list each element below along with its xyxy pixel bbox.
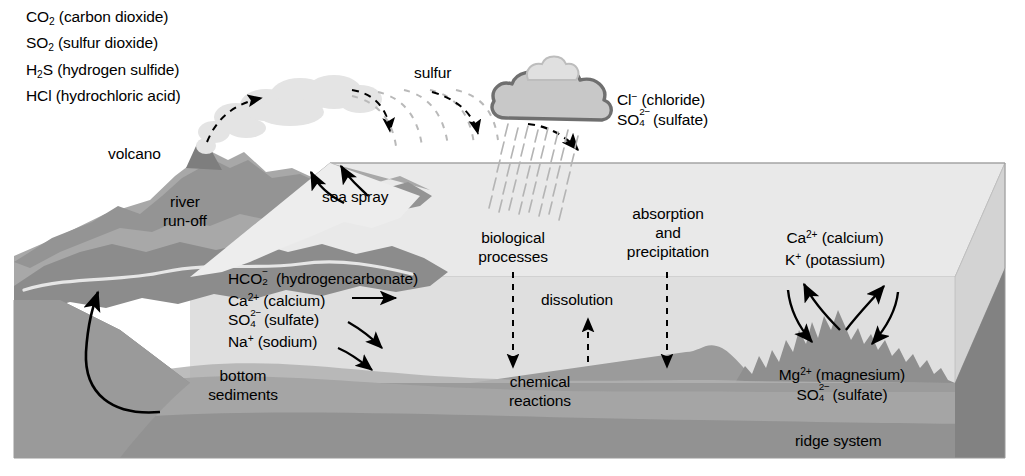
biological-processes-label: biological processes — [467, 228, 559, 266]
sulfur-label: sulfur — [414, 63, 451, 82]
river-ion-hydrogencarbonate: HCO−2 (hydrogencarbonate) — [228, 268, 418, 288]
river-runoff-label: river run-off — [163, 192, 207, 230]
dissolution-label: dissolution — [541, 290, 613, 309]
rain-ion-sulfate: SO2−4 (sulfate) — [617, 109, 708, 129]
volcanic-plume — [196, 75, 382, 154]
biological-processes-line1: biological — [467, 228, 559, 247]
seawater-ion-potassium: K+ (potassium) — [760, 247, 910, 269]
river-input-ions-list: HCO−2 (hydrogencarbonate) Ca2+ (calcium)… — [228, 268, 418, 350]
ridge-system-label: ridge system — [795, 431, 882, 450]
volcanic-gases-list: CO2 (carbon dioxide) SO2 (sulfur dioxide… — [26, 6, 180, 107]
biological-processes-line2: processes — [467, 247, 559, 266]
gas-line-h2s: H2S (hydrogen sulfide) — [26, 59, 180, 85]
chemical-reactions-label: chemical reactions — [490, 372, 590, 410]
ridge-ion-magnesium: Mg2+ (magnesium) — [752, 362, 932, 384]
river-ion-sodium: Na+ (sodium) — [228, 329, 418, 351]
volcano-label: volcano — [108, 144, 161, 163]
absorption-line1: absorption — [612, 204, 724, 223]
cloud-puff-top — [527, 57, 578, 81]
chemical-reactions-line2: reactions — [490, 391, 590, 410]
sea-spray-label: sea spray — [322, 187, 388, 206]
gas-line-so2: SO2 (sulfur dioxide) — [26, 32, 180, 58]
ridge-ion-sulfate: SO2−4 (sulfate) — [752, 384, 932, 404]
bottom-sediments-label: bottom sediments — [196, 366, 290, 404]
rain-ions-list: Cl− (chloride) SO2−4 (sulfate) — [617, 87, 708, 128]
river-runoff-line2: run-off — [163, 211, 207, 230]
bottom-sediments-line1: bottom — [196, 366, 290, 385]
bottom-sediments-line2: sediments — [196, 385, 290, 404]
chemical-reactions-line1: chemical — [490, 372, 590, 391]
river-runoff-line1: river — [163, 192, 207, 211]
absorption-line3: precipitation — [612, 242, 724, 261]
rain-ion-chloride: Cl− (chloride) — [617, 87, 708, 109]
gas-line-co2: CO2 (carbon dioxide) — [26, 6, 180, 32]
sulfur-deposition-arrow — [432, 92, 478, 134]
ocean-salinity-diagram: CO2 (carbon dioxide) SO2 (sulfur dioxide… — [0, 0, 1025, 476]
ridge-ions-list: Mg2+ (magnesium) SO2−4 (sulfate) — [752, 362, 932, 403]
seawater-ion-calcium: Ca2+ (calcium) — [760, 225, 910, 247]
absorption-precipitation-label: absorption and precipitation — [612, 204, 724, 261]
gas-line-hcl: HCl (hydrochloric acid) — [26, 85, 180, 107]
rain-cloud — [492, 57, 611, 151]
absorption-line2: and — [612, 223, 724, 242]
seawater-ions-upper-list: Ca2+ (calcium) K+ (potassium) — [760, 225, 910, 268]
river-ion-calcium: Ca2+ (calcium) — [228, 288, 418, 310]
river-ion-sulfate: SO2−4 (sulfate) — [228, 309, 418, 329]
